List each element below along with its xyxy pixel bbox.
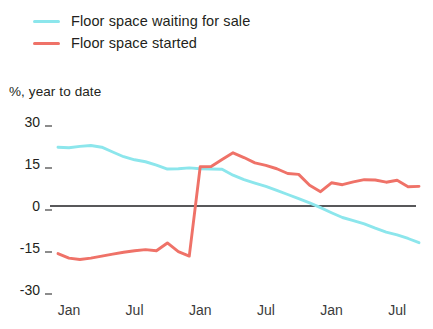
series-line [58, 146, 419, 243]
y-tick-mark [45, 209, 52, 211]
y-tick-label: -15 [6, 241, 40, 255]
y-tick-label: 30 [6, 115, 40, 129]
x-tick-label: Jan [47, 303, 91, 317]
plot-area: 30150-15-30 JanJulJanJulJanJul [0, 0, 433, 329]
x-tick-label: Jan [309, 303, 353, 317]
y-tick-mark [45, 167, 52, 169]
y-tick-mark [45, 293, 52, 295]
chart-svg [0, 0, 433, 329]
y-tick-label: 15 [6, 157, 40, 171]
x-tick-label: Jul [113, 303, 157, 317]
chart-container: Floor space waiting for sale Floor space… [0, 0, 433, 329]
y-tick-label: -30 [6, 283, 40, 297]
y-tick-mark [45, 125, 52, 127]
y-tick-mark [45, 251, 52, 253]
x-tick-label: Jul [244, 303, 288, 317]
x-tick-label: Jan [178, 303, 222, 317]
y-tick-label: 0 [6, 199, 40, 213]
x-tick-label: Jul [375, 303, 419, 317]
